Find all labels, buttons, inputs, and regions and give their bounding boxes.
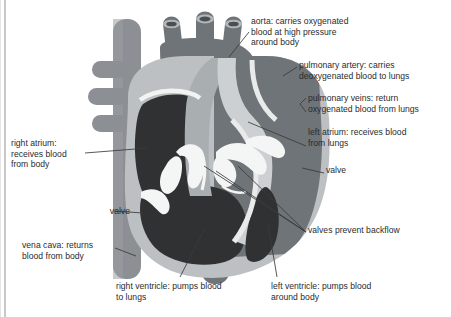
label-left-ventricle: left ventricle: pumps blood around body <box>271 281 411 302</box>
label-vena-cava: vena cava: returns blood from body <box>22 240 132 261</box>
page-canvas: aorta: carries oxygenated blood at high … <box>0 0 451 317</box>
label-valve-right: valve <box>326 165 386 176</box>
label-valve-left: valve <box>86 206 130 217</box>
label-valves-prevent-backflow: valves prevent backflow <box>308 225 451 236</box>
label-pulmonary-veins: pulmonary veins: return oxygenated blood… <box>308 93 451 114</box>
label-pulmonary-artery: pulmonary artery: carries deoxygenated b… <box>299 60 451 81</box>
label-right-atrium: right atrium: receives blood from body <box>11 138 111 170</box>
label-left-atrium: left atrium: receives blood from lungs <box>308 127 448 148</box>
label-right-ventricle: right ventricle: pumps blood to lungs <box>116 281 256 302</box>
label-aorta: aorta: carries oxygenated blood at high … <box>251 16 401 48</box>
left-branch-vessels <box>88 61 128 132</box>
